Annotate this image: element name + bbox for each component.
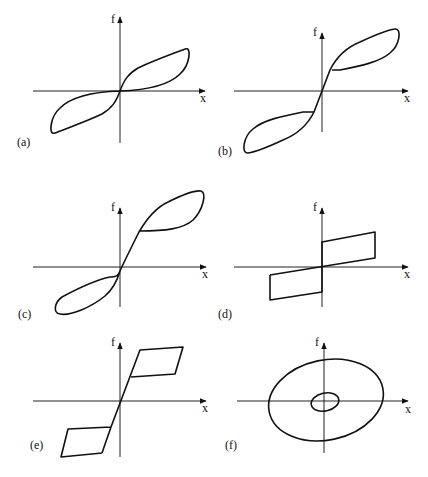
f-axis-label: f	[111, 12, 115, 26]
panel-c: f x (c)	[18, 191, 208, 321]
f-axis-label: f	[315, 335, 319, 349]
x-axis-label: x	[404, 267, 410, 281]
panel-label: (f)	[225, 438, 237, 452]
f-axis-label: f	[111, 200, 115, 214]
x-axis-label: x	[200, 91, 206, 105]
outer-ellipse	[261, 349, 391, 451]
f-axis-label: f	[111, 335, 115, 349]
x-axis-label: x	[405, 402, 411, 416]
panel-label: (a)	[17, 135, 30, 149]
panel-f: f x (f)	[225, 335, 411, 453]
panel-e: f x (e)	[30, 335, 208, 457]
x-axis-label: x	[202, 267, 208, 281]
inner-ellipse	[309, 390, 340, 413]
f-axis-label: f	[313, 200, 317, 214]
hysteresis-curve	[270, 232, 375, 300]
f-axis-label: f	[313, 25, 317, 39]
hysteresis-figure: f x (a) f x (b) f x (c) f x (d) f x (e)	[0, 0, 428, 477]
panel-label: (c)	[18, 307, 31, 321]
panel-label: (d)	[218, 307, 232, 321]
panel-label: (e)	[30, 438, 43, 452]
hysteresis-curve	[61, 347, 183, 457]
x-axis-label: x	[404, 91, 410, 105]
panel-a: f x (a)	[17, 12, 206, 149]
panel-d: f x (d)	[218, 200, 410, 321]
hysteresis-curve	[55, 191, 204, 314]
x-axis-label: x	[202, 401, 208, 415]
panel-label: (b)	[218, 144, 232, 158]
panel-b: f x (b)	[218, 25, 410, 158]
